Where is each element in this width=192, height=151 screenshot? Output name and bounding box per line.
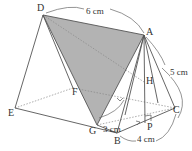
point-label-C: C (173, 105, 180, 115)
point-label-P: P (147, 122, 153, 132)
point-label-D: D (37, 3, 44, 13)
measure-BC: 4 cm (137, 135, 155, 144)
point-label-F: F (72, 87, 78, 97)
shaded-triangle-DAG (43, 15, 144, 125)
measure-DA: 6 cm (86, 7, 104, 16)
measure-GH: 3 cm (103, 125, 121, 134)
point-label-A: A (146, 27, 153, 37)
point-label-H: H (146, 76, 153, 86)
point-label-E: E (8, 108, 14, 118)
point-label-G: G (89, 126, 96, 136)
measure-AC: 5 cm (170, 68, 188, 77)
prism-diagram: D A H C F G E B P 6 cm 5 cm 3 cm 4 cm (0, 0, 192, 151)
point-label-B: B (114, 136, 121, 146)
